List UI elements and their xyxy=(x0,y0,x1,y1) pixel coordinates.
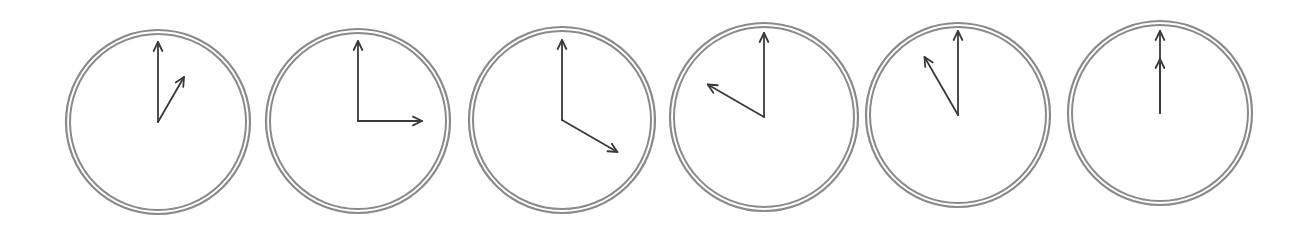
clock-4: 10:00 xyxy=(670,23,858,211)
clocks-figure: 1:003:004:0010:0011:0012:00 xyxy=(0,0,1313,229)
clock-5: 11:00 xyxy=(866,23,1050,207)
clock-6: 12:00 xyxy=(1068,21,1252,205)
clock-3: 4:00 xyxy=(469,27,655,213)
clock-2: 3:00 xyxy=(266,29,450,213)
clock-1: 1:00 xyxy=(66,30,250,214)
